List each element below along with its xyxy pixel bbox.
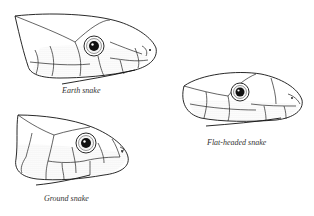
ground-snake-figure (12, 113, 132, 188)
earth-snake-figure (10, 8, 160, 88)
caption-flat-headed-snake: Flat-headed snake (207, 138, 266, 147)
ground-snake-head-drawing (12, 113, 132, 188)
flat-headed-snake-figure (176, 66, 306, 131)
earth-snake-head-drawing (10, 8, 160, 88)
caption-ground-snake: Ground snake (44, 194, 89, 203)
flat-headed-snake-head-drawing (176, 66, 306, 131)
caption-earth-snake: Earth snake (62, 86, 100, 95)
